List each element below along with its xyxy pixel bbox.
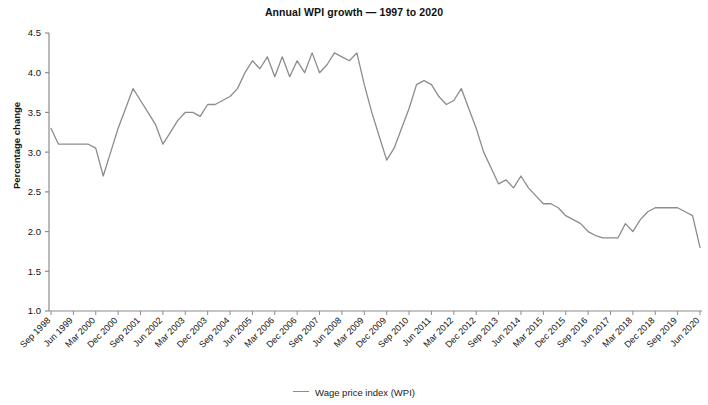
legend-item-wpi: Wage price index (WPI) (293, 386, 415, 398)
legend-line-swatch (293, 391, 309, 392)
y-tick-label: 2.5 (28, 186, 41, 197)
y-tick-label: 2.0 (28, 226, 41, 237)
chart-legend: Wage price index (WPI) (0, 386, 708, 398)
y-tick-label: 1.5 (28, 266, 41, 277)
y-tick-label: 4.5 (28, 27, 41, 38)
y-tick-label: 4.0 (28, 67, 41, 78)
y-tick-label: 3.0 (28, 147, 41, 158)
plot-area: 1.01.52.02.53.03.54.04.5 Sep 1998Jun 199… (0, 0, 708, 405)
wpi-data-line (51, 53, 700, 248)
x-axis-ticks: Sep 1998Jun 1999Mar 2000Dec 2000Sep 2001… (18, 311, 701, 350)
y-tick-label: 3.5 (28, 107, 41, 118)
legend-item-label: Wage price index (WPI) (315, 387, 415, 398)
y-tick-label: 1.0 (28, 305, 41, 316)
y-axis-ticks: 1.01.52.02.53.03.54.04.5 (28, 27, 49, 316)
chart-container: Annual WPI growth — 1997 to 2020 Percent… (0, 0, 708, 405)
